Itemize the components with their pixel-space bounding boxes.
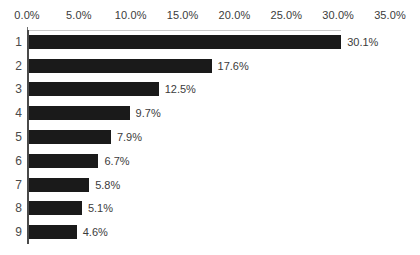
category-label: 9 <box>15 225 22 239</box>
category-label: 6 <box>15 154 22 168</box>
bar-value-label: 4.6% <box>83 226 108 239</box>
bar-value-label: 12.5% <box>165 83 196 96</box>
x-axis-tick-label: 20.0% <box>219 9 251 22</box>
bar-value-label: 5.8% <box>95 178 120 191</box>
bar <box>29 201 82 215</box>
category-label: 3 <box>15 82 22 96</box>
bar-chart: 0.0%5.0%10.0%15.0%20.0%25.0%30.0%35.0% 1… <box>0 0 420 255</box>
bar-value-label: 6.7% <box>104 154 129 167</box>
bar <box>29 59 212 73</box>
bar-row: 66.7% <box>0 149 420 173</box>
x-axis-tick-label: 35.0% <box>374 9 406 22</box>
category-label: 4 <box>15 106 22 120</box>
x-axis-tick-label: 30.0% <box>322 9 354 22</box>
bar-row: 85.1% <box>0 196 420 220</box>
bar <box>29 154 98 168</box>
bar-row: 75.8% <box>0 173 420 197</box>
bar <box>29 35 341 49</box>
plot-area: 130.1%217.6%312.5%49.7%57.9%66.7%75.8%85… <box>0 30 420 244</box>
bar <box>29 130 111 144</box>
bar-value-label: 17.6% <box>218 59 249 72</box>
x-axis-tick-label: 15.0% <box>167 9 199 22</box>
bar-row: 312.5% <box>0 78 420 102</box>
bar-value-label: 9.7% <box>136 107 161 120</box>
category-label: 2 <box>15 59 22 73</box>
category-label: 8 <box>15 201 22 215</box>
bar-value-label: 7.9% <box>117 130 142 143</box>
bar-row: 217.6% <box>0 54 420 78</box>
x-axis-tick-label-row: 0.0%5.0%10.0%15.0%20.0%25.0%30.0%35.0% <box>0 0 420 30</box>
bar <box>29 178 89 192</box>
bar-value-label: 5.1% <box>88 202 113 215</box>
bar-row: 130.1% <box>0 30 420 54</box>
bar-row: 94.6% <box>0 220 420 244</box>
x-axis-tick-label: 5.0% <box>66 9 91 22</box>
x-axis-tick-label: 10.0% <box>115 9 147 22</box>
category-label: 1 <box>15 35 22 49</box>
bar-value-label: 30.1% <box>347 35 378 48</box>
x-axis-tick-label: 25.0% <box>270 9 302 22</box>
bar <box>29 106 130 120</box>
bar <box>29 225 77 239</box>
bar <box>29 82 159 96</box>
bar-row: 57.9% <box>0 125 420 149</box>
category-label: 7 <box>15 178 22 192</box>
category-label: 5 <box>15 130 22 144</box>
bar-row: 49.7% <box>0 101 420 125</box>
x-axis-tick-label: 0.0% <box>14 9 39 22</box>
